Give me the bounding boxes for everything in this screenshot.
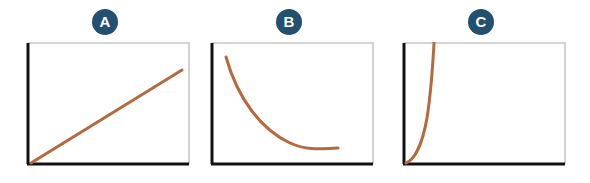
data-curve-b xyxy=(226,57,338,149)
panel-b-badge: B xyxy=(276,9,302,35)
panel-b-plot xyxy=(204,42,374,166)
plot-frame xyxy=(212,43,373,164)
panel-a-plot xyxy=(20,42,190,166)
plot-frame xyxy=(28,43,189,164)
panel-a-badge: A xyxy=(92,9,118,35)
data-curve-a xyxy=(31,70,182,163)
panel-c-badge: C xyxy=(468,9,494,35)
three-panel-figure: A B C xyxy=(0,0,590,183)
panel-b: B xyxy=(196,0,382,183)
panel-c-plot xyxy=(396,42,566,166)
panel-a: A xyxy=(12,0,198,183)
panel-c: C xyxy=(388,0,574,183)
data-curve-c xyxy=(406,43,434,163)
